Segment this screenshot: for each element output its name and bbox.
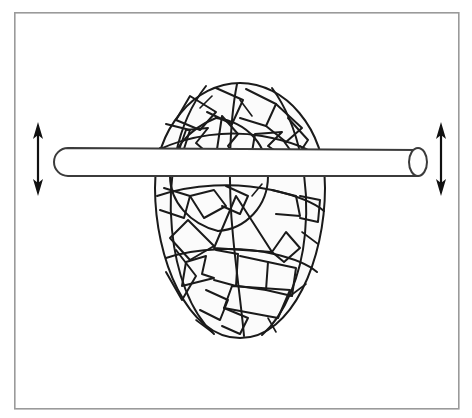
- horizontal-rod: [54, 148, 427, 176]
- rod-right-end-cap: [409, 148, 427, 176]
- rod-shaft: [54, 148, 424, 176]
- diagram-canvas: [0, 0, 472, 418]
- figure-root: Cracked egg-shaped shell pierced by a ho…: [0, 0, 472, 418]
